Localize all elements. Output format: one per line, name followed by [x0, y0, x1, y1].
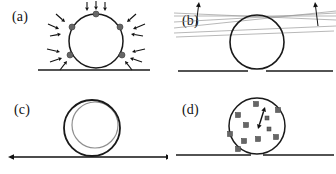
arrow-head	[85, 8, 89, 11]
arrow-head	[8, 154, 14, 160]
upward-arrows-b	[196, 2, 318, 26]
arrow-head	[196, 2, 201, 7]
tangent-line	[174, 11, 336, 28]
arrow-head	[131, 33, 135, 37]
contact-dot	[67, 52, 73, 58]
panel-c: (c)	[0, 87, 168, 174]
panel-a: (a)	[0, 0, 168, 87]
droplet-outline	[69, 14, 123, 68]
particle	[274, 135, 279, 140]
panel-b: (b)	[168, 0, 336, 87]
arrow-head	[261, 107, 266, 112]
particle	[265, 116, 269, 120]
particle	[244, 123, 249, 128]
panel-a-diagram	[0, 0, 168, 87]
arrow-shaft	[130, 14, 136, 20]
arrow-head	[103, 8, 107, 11]
arrow-shaft	[259, 111, 263, 124]
arrow-shaft	[136, 24, 145, 28]
contact-dot	[119, 52, 125, 58]
particle	[236, 147, 241, 152]
arrow-shaft	[135, 49, 145, 51]
arrow-head	[57, 33, 61, 37]
arrow-shaft	[48, 24, 56, 28]
inner-circle-c	[72, 102, 118, 148]
figure-panels-container: (a) (b) (c) (d)	[0, 0, 336, 174]
arrow-shaft	[50, 35, 58, 36]
arrow-shaft	[196, 7, 198, 26]
particle	[254, 102, 259, 107]
contact-dot	[69, 24, 75, 30]
particle	[228, 132, 233, 137]
internal-double-arrow-d	[257, 107, 266, 129]
contact-dot	[93, 11, 99, 17]
panel-d: (d)	[168, 87, 336, 174]
arrow-head	[257, 124, 262, 129]
arrow-head	[94, 7, 98, 10]
particle	[276, 108, 281, 113]
panel-b-diagram	[168, 0, 336, 87]
arrow-shaft	[60, 64, 65, 70]
arrow-shaft	[127, 64, 132, 70]
arrow-shaft	[316, 7, 318, 26]
arrow-head	[132, 49, 136, 53]
contact-dots-a	[67, 11, 125, 58]
particle	[267, 127, 271, 131]
arrow-shaft	[50, 59, 59, 62]
panel-c-diagram	[0, 87, 168, 174]
particle	[242, 139, 247, 144]
arrow-shaft	[133, 59, 142, 62]
arrow-shaft	[134, 35, 143, 36]
arrow-head	[313, 2, 318, 7]
droplet-outline	[230, 15, 284, 69]
inner-droplet-outline	[72, 102, 118, 148]
panel-d-diagram	[168, 87, 336, 174]
particle	[256, 137, 261, 142]
particle	[236, 113, 241, 118]
contact-dot	[117, 24, 123, 30]
arrow-head	[56, 49, 60, 53]
droplet-circle-b	[230, 15, 284, 69]
arrow-shaft	[47, 49, 57, 51]
arrow-shaft	[56, 14, 62, 20]
droplet-circle-a	[69, 14, 123, 68]
